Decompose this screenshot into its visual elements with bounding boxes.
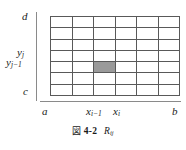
grid-cell: [159, 28, 181, 39]
grid-cell: [51, 62, 73, 73]
grid-cell: [73, 73, 95, 84]
y-axis-line: [36, 12, 37, 101]
xi1-subscript: i−1: [91, 109, 102, 118]
grid-cell: [73, 28, 95, 39]
grid-cell: [137, 62, 159, 73]
highlighted-subrectangle-Rij: [94, 62, 116, 73]
grid-cell: [94, 40, 116, 51]
y-axis-label-d: d: [22, 11, 28, 22]
x-axis-tick-label-xi: xi: [113, 106, 120, 117]
grid-cell: [51, 17, 73, 28]
grid-cell: [159, 62, 181, 73]
y-axis-tick-label-yj-minus-1: yj−1: [6, 57, 22, 68]
grid-cell: [116, 28, 138, 39]
caption-symbol: Rij: [104, 126, 113, 136]
grid-cell: [73, 17, 95, 28]
grid-cell: [137, 85, 159, 96]
grid-cell: [159, 17, 181, 28]
grid-cell: [94, 28, 116, 39]
grid-cell: [51, 51, 73, 62]
yj-subscript: j: [22, 50, 24, 59]
x-axis-label-b: b: [172, 106, 178, 117]
grid-cell: [94, 51, 116, 62]
caption-symbol-subscript: ij: [110, 129, 114, 136]
grid-cell: [137, 73, 159, 84]
grid-cell: [137, 51, 159, 62]
grid-cell: [159, 51, 181, 62]
grid-cell: [137, 40, 159, 51]
grid-cell: [73, 51, 95, 62]
figure-caption: 図 4-2Rij: [0, 127, 186, 137]
grid-cell: [137, 28, 159, 39]
caption-figure-mark: 図: [72, 126, 81, 136]
grid-cell: [137, 17, 159, 28]
xi-subscript: i: [118, 109, 120, 118]
y-axis-label-c: c: [23, 86, 28, 97]
grid-cell: [51, 28, 73, 39]
grid-cell: [159, 85, 181, 96]
partition-grid: [50, 16, 180, 96]
x-axis-tick-label-xi-minus-1: xi−1: [86, 106, 102, 117]
grid-cell: [116, 40, 138, 51]
grid-cell: [116, 62, 138, 73]
grid-cell: [51, 40, 73, 51]
grid-cell: [116, 85, 138, 96]
caption-figure-number: 4-2: [84, 126, 97, 136]
grid-cell: [116, 73, 138, 84]
grid-cell: [51, 73, 73, 84]
grid-cell: [116, 51, 138, 62]
yj1-subscript: j−1: [11, 60, 22, 69]
grid-cell: [73, 85, 95, 96]
grid-cell: [51, 85, 73, 96]
grid-cell: [73, 62, 95, 73]
grid-cell: [116, 17, 138, 28]
grid-cell: [94, 73, 116, 84]
x-axis-line: [40, 101, 181, 102]
grid-cell: [159, 73, 181, 84]
grid-cell: [73, 40, 95, 51]
grid-cell: [94, 85, 116, 96]
x-axis-label-a: a: [42, 106, 48, 117]
figure-container: d c yj yj−1 a b xi−1 xi 図 4-2Rij: [0, 0, 186, 150]
grid-cell: [159, 40, 181, 51]
grid-cell: [94, 17, 116, 28]
